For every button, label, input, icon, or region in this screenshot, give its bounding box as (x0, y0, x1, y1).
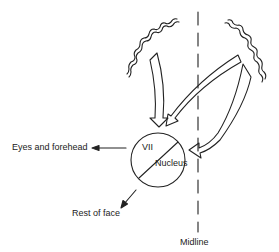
crossing-arrow (166, 55, 241, 126)
label-nucleus: Nucleus (155, 159, 188, 168)
arrowhead-eyes-icon (92, 146, 99, 151)
label-vii: VII (142, 143, 153, 152)
label-rest-of-face: Rest of face (72, 209, 120, 218)
label-eyes-and-forehead: Eyes and forehead (12, 143, 88, 152)
facial-nerve-diagram: Eyes and forehead VII Nucleus Rest of fa… (0, 0, 279, 252)
diagram-canvas (0, 0, 279, 252)
ipsilateral-descending-arrow (150, 53, 168, 127)
arrow-to-rest-of-face (124, 190, 136, 204)
label-midline: Midline (180, 238, 209, 247)
